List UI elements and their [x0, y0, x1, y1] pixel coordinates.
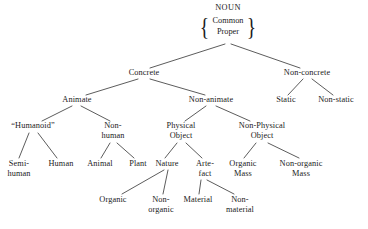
node-human: Human — [49, 159, 74, 169]
node-non-organic-mass-label-line2: Mass — [280, 169, 323, 179]
root-bracket-items: Common Proper — [211, 16, 246, 37]
node-semi-human-label-line1: Semi- — [7, 159, 30, 169]
node-non-organic-mass-label-line1: Non-organic — [280, 159, 323, 169]
node-semi-human: Semi- human — [7, 159, 30, 178]
noun-taxonomy-tree-diagram: NOUN { Common Proper } Concrete Non-conc… — [0, 0, 368, 229]
node-animal-label: Animal — [87, 159, 113, 169]
node-concrete: Concrete — [129, 68, 160, 78]
left-brace-icon: { — [200, 14, 209, 40]
node-artefact-label-line1: Arte- — [196, 159, 214, 169]
node-non-physical-object: Non-Physical Object — [239, 121, 285, 140]
edge-nonanimate-physical — [185, 106, 206, 121]
bracket-item-proper: Proper — [213, 27, 244, 38]
bracket-item-common: Common — [213, 16, 244, 27]
root-bracket-group: { Common Proper } — [198, 14, 258, 40]
node-organic-mass-label-line2: Mass — [229, 169, 256, 179]
node-animal: Animal — [87, 159, 113, 169]
node-non-material: Non- material — [226, 195, 254, 214]
root-label-text: NOUN — [215, 3, 241, 12]
node-non-physical-object-label-line1: Non-Physical — [239, 121, 285, 131]
node-non-concrete: Non-concrete — [284, 68, 330, 78]
node-plant-label: Plant — [129, 159, 147, 169]
right-brace-icon: } — [247, 14, 256, 40]
edge-nonhuman-plant — [117, 143, 134, 158]
node-organic-mass: Organic Mass — [229, 159, 256, 178]
root-node-label: NOUN — [215, 3, 241, 13]
node-nature: Nature — [155, 159, 178, 169]
edge-nature-organic — [122, 170, 164, 194]
node-non-organic: Non- organic — [148, 195, 173, 214]
edge-humanoid-semi-human — [19, 133, 29, 158]
edge-animate-non-human — [81, 106, 110, 121]
node-non-organic-mass: Non-organic Mass — [280, 159, 323, 178]
node-static-label: Static — [276, 95, 296, 105]
node-non-animate-label: Non-animate — [189, 95, 233, 105]
node-non-organic-label-line2: organic — [148, 205, 173, 215]
node-nature-label: Nature — [155, 159, 178, 169]
node-non-physical-object-label-line2: Object — [239, 131, 285, 141]
edge-nonconcrete-static — [288, 79, 303, 95]
edge-physical-nature — [165, 143, 177, 158]
node-organic: Organic — [99, 195, 126, 205]
edge-artefact-non-material — [207, 180, 234, 194]
node-material-label: Material — [184, 195, 213, 205]
node-non-organic-label-line1: Non- — [148, 195, 173, 205]
edge-nature-non-organic — [163, 170, 168, 194]
node-humanoid-label: “Humanoid” — [11, 121, 54, 131]
edge-humanoid-human — [38, 133, 57, 158]
node-non-static: Non-static — [318, 95, 354, 105]
node-artefact: Arte- fact — [196, 159, 214, 178]
edge-nonhuman-animal — [101, 143, 110, 158]
node-static: Static — [276, 95, 296, 105]
node-non-material-label-line2: material — [226, 205, 254, 215]
node-humanoid: “Humanoid” — [11, 121, 54, 131]
edge-root-concrete — [150, 44, 225, 68]
edge-nonphysical-non-organic-mass — [268, 143, 299, 158]
edge-physical-artefact — [186, 143, 202, 158]
edge-root-non-concrete — [231, 44, 300, 68]
edge-concrete-animate — [86, 79, 138, 95]
node-physical-object: Physical Object — [167, 121, 196, 140]
edge-nonanimate-non-physical — [216, 106, 250, 121]
node-animate: Animate — [62, 95, 91, 105]
edge-concrete-non-animate — [150, 79, 205, 95]
node-concrete-label: Concrete — [129, 68, 160, 78]
node-physical-object-label-line2: Object — [167, 131, 196, 141]
node-non-animate: Non-animate — [189, 95, 233, 105]
node-material: Material — [184, 195, 213, 205]
edge-nonconcrete-non-static — [312, 79, 333, 95]
edge-nonphysical-organic-mass — [244, 143, 256, 158]
node-non-concrete-label: Non-concrete — [284, 68, 330, 78]
node-non-human-label-line1: Non- — [101, 121, 124, 131]
node-non-material-label-line1: Non- — [226, 195, 254, 205]
node-plant: Plant — [129, 159, 147, 169]
node-animate-label: Animate — [62, 95, 91, 105]
node-artefact-label-line2: fact — [196, 169, 214, 179]
node-non-human-label-line2: human — [101, 131, 124, 141]
node-human-label: Human — [49, 159, 74, 169]
node-non-static-label: Non-static — [318, 95, 354, 105]
edge-artefact-material — [199, 180, 201, 194]
node-non-human: Non- human — [101, 121, 124, 140]
node-organic-mass-label-line1: Organic — [229, 159, 256, 169]
edge-animate-humanoid — [42, 106, 72, 121]
node-semi-human-label-line2: human — [7, 169, 30, 179]
node-organic-label: Organic — [99, 195, 126, 205]
node-physical-object-label-line1: Physical — [167, 121, 196, 131]
